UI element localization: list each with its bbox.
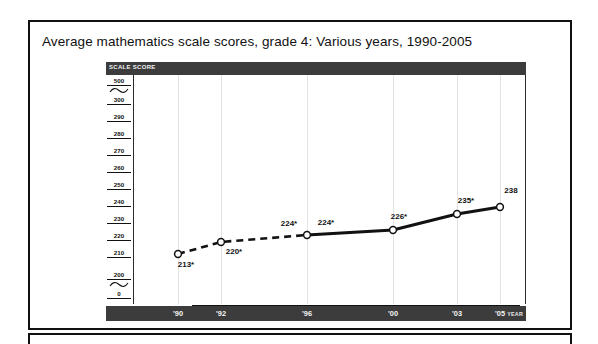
y-tick-280: 280	[107, 130, 131, 139]
y-tick-260: 260	[107, 164, 131, 173]
y-tick-300: 300	[107, 96, 131, 105]
y-tick-0: 0	[107, 290, 131, 299]
data-label-2003: 235*	[458, 196, 474, 205]
data-point-1996	[304, 232, 311, 239]
y-tick-200: 200	[107, 271, 131, 280]
data-label-2000: 226*	[391, 212, 407, 221]
y-tick-290: 290	[107, 113, 131, 122]
y-axis-break-top-icon	[109, 86, 129, 95]
figure-frame: Average mathematics scale scores, grade …	[28, 20, 572, 330]
y-tick-270: 270	[107, 147, 131, 156]
data-point-1990	[175, 251, 182, 258]
plot-area: 213* 220* 224* 224* 226* 235* 238	[134, 75, 526, 304]
series-accommodations-not-permitted-line	[178, 235, 307, 254]
data-point-2003	[454, 211, 461, 218]
x-tick-2003: '03	[452, 309, 462, 318]
y-tick-210: 210	[107, 249, 131, 258]
x-axis-unit-label: YEAR	[507, 311, 523, 317]
x-tick-2005: '05	[495, 309, 505, 318]
x-axis: '90 '92 '96 '00 '03 '05 YEAR	[106, 306, 526, 321]
y-tick-230: 230	[107, 215, 131, 224]
data-label-2005: 238	[504, 186, 517, 195]
y-axis: 500 300 290 280 270 260 250 240 230 220 …	[106, 75, 134, 304]
x-tick-1992: '92	[216, 309, 226, 318]
data-point-2005	[497, 204, 504, 211]
series-lines	[134, 75, 526, 304]
data-label-1992: 220*	[226, 247, 242, 256]
data-point-2000	[390, 227, 397, 234]
x-tick-1996: '96	[302, 309, 312, 318]
data-label-1996-not-permitted: 224*	[281, 219, 297, 228]
x-tick-2000: '00	[388, 309, 398, 318]
y-tick-240: 240	[107, 198, 131, 207]
y-tick-250: 250	[107, 181, 131, 190]
data-label-1996-permitted: 224*	[318, 218, 334, 227]
y-tick-220: 220	[107, 232, 131, 241]
data-point-1992	[218, 239, 225, 246]
x-tick-1990: '90	[173, 309, 183, 318]
page-bottom-frame	[28, 333, 572, 344]
y-axis-title: SCALE SCORE	[109, 64, 156, 70]
page-title: Average mathematics scale scores, grade …	[42, 34, 562, 49]
scale-score-header-bar: SCALE SCORE	[106, 62, 526, 75]
y-tick-500: 500	[107, 77, 131, 86]
chart-container: SCALE SCORE 500 300 290 280 270 260 250 …	[106, 62, 526, 327]
y-axis-break-bottom-icon	[109, 280, 129, 289]
data-label-1990: 213*	[178, 260, 194, 269]
